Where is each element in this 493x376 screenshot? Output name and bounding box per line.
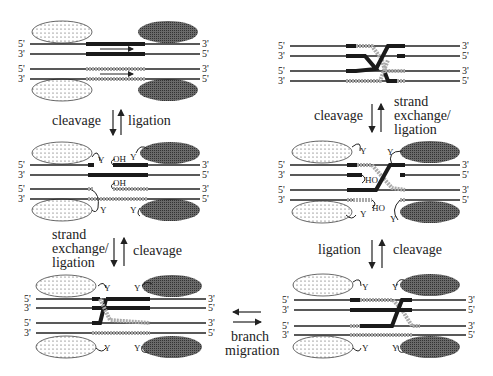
svg-text:3': 3': [278, 194, 285, 205]
svg-text:HO: HO: [365, 175, 378, 185]
svg-text:cleavage: cleavage: [52, 113, 101, 128]
svg-text:3': 3': [278, 50, 285, 61]
svg-text:Y: Y: [392, 282, 399, 292]
protein-dark-top: [138, 21, 198, 43]
svg-text:5': 5': [462, 50, 469, 61]
panel-2-cleaved: Y Y OH OH Y Y 5' 3' 5' 3' 3' 5' 3' 5': [18, 142, 209, 221]
svg-text:Y: Y: [134, 283, 141, 293]
svg-text:Y: Y: [130, 205, 137, 215]
svg-text:Y: Y: [360, 209, 367, 219]
svg-text:HO: HO: [372, 203, 385, 213]
svg-text:5': 5': [468, 304, 475, 315]
svg-text:Y: Y: [387, 147, 394, 157]
svg-text:Y: Y: [360, 146, 367, 156]
svg-text:5': 5': [462, 75, 469, 86]
svg-text:exchange/: exchange/: [52, 241, 109, 256]
svg-text:5': 5': [202, 169, 209, 180]
svg-text:cleavage: cleavage: [314, 108, 363, 123]
svg-text:3': 3': [24, 327, 31, 338]
svg-text:migration: migration: [225, 343, 279, 358]
svg-text:3': 3': [278, 75, 285, 86]
svg-text:OH: OH: [113, 154, 126, 164]
svg-text:ligation: ligation: [128, 113, 171, 128]
step-cleavage-ligation-left: cleavage ligation: [52, 110, 171, 135]
svg-text:cleavage: cleavage: [133, 243, 182, 258]
svg-text:Y: Y: [130, 152, 137, 162]
step-branch-migration: branch migration: [225, 312, 279, 358]
protein-dark-bottom: [138, 79, 198, 101]
svg-text:ligation: ligation: [52, 255, 95, 270]
svg-text:Y: Y: [98, 155, 105, 165]
svg-text:cleavage: cleavage: [393, 242, 442, 257]
svg-text:branch: branch: [231, 329, 269, 344]
svg-text:ligation: ligation: [318, 242, 361, 257]
svg-text:3': 3': [18, 48, 25, 59]
svg-text:5': 5': [202, 193, 209, 204]
panel-3-holliday-junction: Y Y Y Y 5' 3' 5' 3' 3' 5' 3' 5': [24, 275, 215, 358]
svg-text:5': 5': [202, 73, 209, 84]
panel-5-cleaved-junction: Y Y HO HO Y Y 5' 3' 5' 3' 3' 5' 3' 5': [278, 141, 469, 224]
step-ligation-cleavage-right: ligation cleavage: [318, 240, 442, 268]
step-strand-exchange-left: strand exchange/ ligation cleavage: [52, 227, 182, 270]
svg-text:Y: Y: [134, 343, 141, 353]
svg-text:3': 3': [18, 169, 25, 180]
svg-text:3': 3': [24, 302, 31, 313]
panel-4-migrated-junction: Y Y Y Y 5' 3' 5' 3' 3' 5' 3' 5': [282, 274, 475, 358]
recombination-diagram: 5' 3' 5' 3' 3' 5' 3' 5' cleavage ligatio…: [0, 0, 493, 376]
panel-6-recombinant: 5' 3' 5' 3' 3' 5' 3' 5': [278, 40, 469, 86]
svg-text:Y: Y: [104, 283, 111, 293]
step-cleavage-strand-exchange-right: cleavage strand exchange/ ligation: [314, 94, 451, 137]
svg-text:3': 3': [18, 73, 25, 84]
svg-text:3': 3': [282, 329, 289, 340]
svg-text:5': 5': [202, 48, 209, 59]
svg-text:3': 3': [278, 169, 285, 180]
svg-text:3': 3': [282, 304, 289, 315]
protein-light-bottom: [32, 79, 92, 101]
svg-text:ligation: ligation: [394, 122, 437, 137]
panel-1-synapse: 5' 3' 5' 3' 3' 5' 3' 5': [18, 21, 209, 101]
svg-text:Y: Y: [392, 343, 399, 353]
svg-text:5': 5': [462, 194, 469, 205]
svg-text:Y: Y: [362, 282, 369, 292]
svg-text:strand: strand: [394, 94, 428, 109]
svg-text:Y: Y: [100, 205, 107, 215]
svg-text:5': 5': [468, 329, 475, 340]
protein-light-top: [32, 21, 92, 43]
svg-text:Y: Y: [104, 343, 111, 353]
svg-text:5': 5': [208, 327, 215, 338]
svg-text:Y: Y: [390, 214, 397, 224]
svg-text:exchange/: exchange/: [394, 108, 451, 123]
svg-text:3': 3': [18, 193, 25, 204]
svg-text:Y: Y: [362, 343, 369, 353]
svg-text:5': 5': [462, 169, 469, 180]
svg-text:OH: OH: [113, 178, 126, 188]
svg-text:strand: strand: [52, 227, 86, 242]
svg-text:5': 5': [208, 302, 215, 313]
